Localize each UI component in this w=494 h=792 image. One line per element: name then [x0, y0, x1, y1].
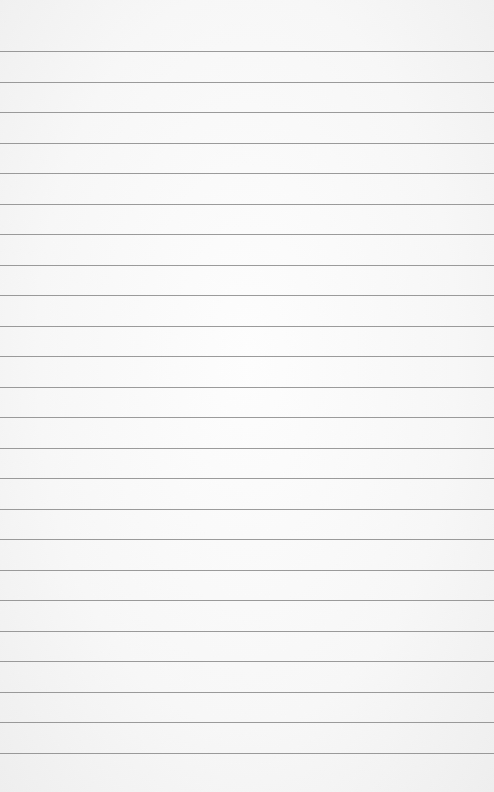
ruled-line	[0, 265, 494, 266]
ruled-line	[0, 448, 494, 449]
ruled-line	[0, 173, 494, 174]
ruled-line	[0, 570, 494, 571]
lined-paper	[0, 0, 494, 792]
ruled-line	[0, 387, 494, 388]
ruled-line	[0, 509, 494, 510]
ruled-line	[0, 753, 494, 754]
ruled-line	[0, 204, 494, 205]
ruled-line	[0, 722, 494, 723]
ruled-line	[0, 112, 494, 113]
ruled-line	[0, 539, 494, 540]
ruled-line	[0, 82, 494, 83]
ruled-line	[0, 234, 494, 235]
ruled-line	[0, 478, 494, 479]
ruled-line	[0, 692, 494, 693]
ruled-line	[0, 51, 494, 52]
ruled-line	[0, 326, 494, 327]
ruled-line	[0, 356, 494, 357]
ruled-line	[0, 600, 494, 601]
ruled-line	[0, 295, 494, 296]
ruled-line	[0, 417, 494, 418]
ruled-line	[0, 631, 494, 632]
ruled-line	[0, 143, 494, 144]
ruled-line	[0, 661, 494, 662]
